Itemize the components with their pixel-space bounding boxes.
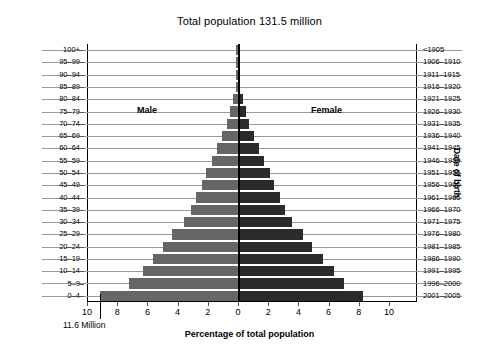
age-tick-mark <box>79 247 84 248</box>
age-tick-mark <box>79 210 84 211</box>
age-tick-mark <box>79 50 84 51</box>
female-bar <box>238 156 264 166</box>
female-bar <box>238 229 303 239</box>
female-bar <box>238 266 334 276</box>
age-tick-mark <box>79 124 84 125</box>
x-tick-mark <box>329 302 330 306</box>
date-of-birth-tick-label: 1966–1970 <box>423 206 461 214</box>
male-bar <box>129 278 238 288</box>
pyramid-row <box>87 93 417 105</box>
date-of-birth-tick-label: 1931–1935 <box>423 120 461 128</box>
zero-axis-line <box>238 44 240 302</box>
x-tick-mark <box>298 302 299 306</box>
age-tick-label: 40–44 <box>59 194 80 202</box>
pyramid-row <box>87 118 417 130</box>
gridline <box>42 112 462 113</box>
x-tick-mark <box>389 302 390 306</box>
male-bar <box>100 291 238 301</box>
x-tick-mark <box>117 302 118 306</box>
female-series-label: Female <box>311 105 342 115</box>
pyramid-row <box>87 241 417 253</box>
female-bar <box>238 217 292 227</box>
age-tick-label: 10–14 <box>59 267 80 275</box>
female-bar <box>238 242 312 252</box>
date-of-birth-tick-label: 1911–1915 <box>423 71 460 79</box>
x-axis-ticks: 1086420246810 <box>0 302 499 322</box>
chart-title: Total population 131.5 million <box>0 15 499 27</box>
age-tick-label: 20–24 <box>59 243 80 251</box>
age-tick-label: 80–84 <box>59 95 80 103</box>
gridline <box>42 50 462 51</box>
date-of-birth-tick-label: 1971–1975 <box>423 218 461 226</box>
age-tick-label: 100+ <box>63 46 80 54</box>
male-bar <box>222 131 238 141</box>
x-tick-label: 6 <box>145 307 150 317</box>
female-bar <box>238 119 249 129</box>
x-tick-mark <box>238 302 239 306</box>
pyramid-row <box>87 142 417 154</box>
male-bar <box>184 217 238 227</box>
male-bar <box>163 242 239 252</box>
age-axis-labels: Age 100+95–9990–9485–8980–8475–7970–7465… <box>0 44 84 302</box>
date-of-birth-tick-label: 1996–2000 <box>423 280 461 288</box>
pyramid-row <box>87 228 417 240</box>
age-tick-label: 55–59 <box>59 157 80 165</box>
male-bar <box>153 254 238 264</box>
pyramid-row <box>87 265 417 277</box>
pyramid-row <box>87 179 417 191</box>
annotation-marker-line <box>100 294 102 319</box>
male-bar <box>206 168 238 178</box>
male-bar <box>202 180 238 190</box>
age-tick-label: 75–79 <box>59 108 80 116</box>
age-tick-label: 70–74 <box>59 120 80 128</box>
age-tick-label: 65–69 <box>59 132 80 140</box>
x-tick-mark <box>147 302 148 306</box>
date-of-birth-tick-label: 1981–1985 <box>423 243 461 251</box>
gridline <box>42 75 462 76</box>
female-bar <box>238 131 254 141</box>
pyramid-row <box>87 290 417 302</box>
x-tick-label: 4 <box>296 307 301 317</box>
age-tick-label: 45–49 <box>59 181 80 189</box>
date-of-birth-tick-label: 1936–1940 <box>423 132 461 140</box>
x-tick-label: 4 <box>175 307 180 317</box>
x-tick-label: 10 <box>82 307 92 317</box>
age-tick-label: 50–54 <box>59 169 80 177</box>
pyramid-row <box>87 191 417 203</box>
male-bar <box>217 143 238 153</box>
female-bar <box>238 180 274 190</box>
x-tick-label: 6 <box>326 307 331 317</box>
pyramid-row <box>87 69 417 81</box>
date-of-birth-axis-title: Date of birth <box>452 148 462 198</box>
male-bar <box>227 119 238 129</box>
age-tick-label: 30–34 <box>59 218 80 226</box>
male-bar <box>143 266 238 276</box>
age-tick-mark <box>79 284 84 285</box>
age-tick-mark <box>79 234 84 235</box>
male-series-label: Male <box>137 105 157 115</box>
gridline <box>42 87 462 88</box>
female-bar <box>238 291 363 301</box>
female-bar <box>238 143 259 153</box>
date-of-birth-tick-label: 1906–1910 <box>423 58 461 66</box>
age-tick-mark <box>79 148 84 149</box>
x-tick-mark <box>208 302 209 306</box>
age-tick-mark <box>79 75 84 76</box>
population-pyramid-chart: Total population 131.5 million Age 100+9… <box>0 0 499 357</box>
x-tick-mark <box>87 302 88 306</box>
annotation-label: 11.6 Million <box>63 320 105 330</box>
x-tick-label: 2 <box>266 307 271 317</box>
pyramid-row <box>87 277 417 289</box>
age-tick-mark <box>79 161 84 162</box>
male-bar <box>191 205 238 215</box>
male-bar <box>212 156 238 166</box>
age-tick-mark <box>79 185 84 186</box>
date-of-birth-tick-label: 1991–1995 <box>423 267 461 275</box>
age-tick-label: 90–94 <box>59 71 80 79</box>
x-tick-label: 10 <box>384 307 394 317</box>
age-tick-mark <box>79 99 84 100</box>
age-tick-mark <box>79 259 84 260</box>
gridline <box>42 124 462 125</box>
pyramid-row <box>87 204 417 216</box>
pyramid-row <box>87 81 417 93</box>
